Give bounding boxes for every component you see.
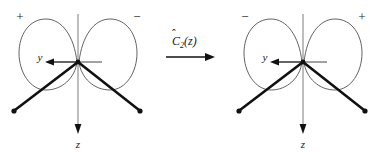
right-lobe-positive xyxy=(304,19,362,90)
left-lobe-right-sign: − xyxy=(133,9,140,24)
right-bond-right xyxy=(303,62,368,114)
left-z-arrowhead xyxy=(75,124,82,134)
right-lobe-right-sign: + xyxy=(358,9,365,24)
left-z-axis xyxy=(75,14,82,134)
right-bond-left xyxy=(236,62,303,114)
right-origin-dot xyxy=(301,60,306,65)
right-y-arrowhead xyxy=(270,59,279,66)
right-atom-dot-right xyxy=(362,108,367,113)
left-origin-dot xyxy=(76,60,81,65)
left-y-arrowhead xyxy=(45,59,54,66)
left-lobe-negative xyxy=(79,19,137,90)
left-atom-dot-right xyxy=(137,108,142,113)
operator-arrow-head-icon xyxy=(205,53,215,61)
left-lobe-positive xyxy=(19,19,77,90)
right-lobe-left-sign: − xyxy=(241,9,248,24)
right-diagram: − + y z xyxy=(236,9,367,150)
right-lobe-negative xyxy=(244,19,302,90)
left-bond-right xyxy=(78,62,143,114)
left-lobe-left-sign: + xyxy=(16,9,23,24)
left-diagram: + − y z xyxy=(11,9,142,150)
right-z-axis xyxy=(300,14,307,134)
left-atom-dot-left xyxy=(11,108,16,113)
left-z-axis-label: z xyxy=(75,138,81,150)
right-z-axis-label: z xyxy=(300,138,306,150)
operator-argument: (z) xyxy=(184,34,197,48)
rotation-operator: C ̂ 2 (z) xyxy=(166,29,215,61)
right-atom-dot-left xyxy=(236,108,241,113)
orbital-rotation-figure: + − y z C ̂ 2 (z) xyxy=(0,0,385,152)
operator-hat-icon: ̂ xyxy=(172,29,176,31)
right-y-axis-label: y xyxy=(262,51,268,63)
left-bond-left xyxy=(11,62,78,114)
right-z-arrowhead xyxy=(300,124,307,134)
left-y-axis-label: y xyxy=(37,51,43,63)
